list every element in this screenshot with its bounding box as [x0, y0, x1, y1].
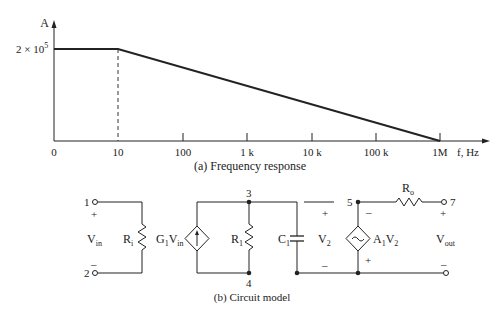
ri-label: Ri	[123, 232, 134, 248]
vin-minus: –	[90, 258, 97, 270]
v2-minus: –	[321, 259, 328, 271]
g1vin-label: G1Vin	[156, 232, 184, 248]
vin-label: Vin	[87, 232, 102, 248]
response-curve	[54, 49, 440, 141]
svg-text:1M: 1M	[432, 146, 448, 158]
resistor-r1-icon	[245, 224, 253, 250]
v2-label: V2	[318, 232, 331, 248]
node-2-label: 2	[84, 267, 90, 279]
terminal-1-icon	[93, 200, 98, 205]
y-axis-arrow-icon	[52, 20, 57, 28]
frequency-response-graph: A f, Hz 2 × 105 0 10 100 1 k 10 k 100 k …	[16, 16, 490, 173]
node-7-label: 7	[450, 196, 456, 208]
terminal-out-minus-icon	[444, 271, 449, 276]
svg-text:0: 0	[51, 146, 57, 158]
svg-text:1 k: 1 k	[240, 146, 254, 158]
x-tick-labels: 0 10 100 1 k 10 k 100 k 1M	[51, 146, 448, 158]
terminal-2-icon	[93, 271, 98, 276]
r1-label: R1	[231, 232, 243, 248]
node-3-label: 3	[246, 187, 252, 199]
vout-minus: –	[440, 258, 447, 270]
y-axis-label: A	[40, 16, 49, 30]
vin-plus: +	[91, 208, 97, 220]
a1-minus: –	[365, 206, 372, 218]
svg-text:100 k: 100 k	[364, 146, 389, 158]
ro-label: Ro	[402, 181, 414, 197]
vout-label: Vout	[436, 232, 456, 248]
node-1-label: 1	[84, 196, 90, 208]
circuit-caption: (b) Circuit model	[214, 291, 290, 304]
x-ticks	[183, 133, 440, 141]
svg-text:100: 100	[175, 146, 192, 158]
y-tick-label: 2 × 105	[16, 41, 48, 55]
x-axis-arrow-icon	[482, 139, 490, 144]
resistor-ri-icon	[138, 224, 146, 250]
c1-label: C1	[278, 232, 290, 248]
svg-text:10: 10	[113, 146, 125, 158]
v2-plus: +	[322, 207, 328, 219]
node-5-label: 5	[347, 196, 353, 208]
node-4-label: 4	[246, 277, 252, 289]
a1-plus: +	[365, 254, 371, 266]
terminal-7-icon	[442, 200, 447, 205]
figure: A f, Hz 2 × 105 0 10 100 1 k 10 k 100 k …	[0, 0, 504, 320]
resistor-ro-icon	[396, 198, 422, 206]
vout-plus: +	[440, 207, 446, 219]
svg-text:10 k: 10 k	[302, 146, 322, 158]
graph-caption: (a) Frequency response	[194, 159, 306, 173]
circuit-model: 1 2 + – Vin Ri G1Vin 3 4 R1 C1	[84, 181, 456, 304]
a1v2-label: A1V2	[373, 232, 398, 248]
x-axis-label: f, Hz	[457, 146, 479, 158]
